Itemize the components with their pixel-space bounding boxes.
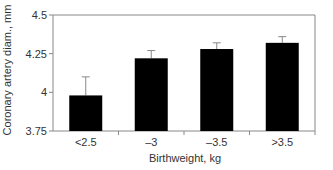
bar — [200, 49, 233, 131]
y-ticks-group: 3.7544.254.5 — [26, 9, 53, 137]
y-tick-label: 4.25 — [26, 48, 47, 60]
y-axis-title: Coronary artery diam., mm — [1, 5, 13, 136]
bar — [266, 43, 299, 131]
bars-group — [69, 37, 299, 131]
bar — [135, 58, 168, 131]
bar-chart: 3.7544.254.5 <2.5–3–3.5>3.5 Birthweight,… — [0, 0, 333, 170]
x-ticks-group: <2.5–3–3.5>3.5 — [75, 131, 315, 148]
x-tick-label: –3 — [145, 136, 157, 148]
y-tick-label: 4.5 — [32, 9, 47, 21]
x-tick-label: >3.5 — [271, 136, 293, 148]
bar — [69, 95, 102, 131]
y-tick-label: 3.75 — [26, 125, 47, 137]
x-tick-label: –3.5 — [206, 136, 227, 148]
y-tick-label: 4 — [41, 86, 47, 98]
x-axis-title: Birthweight, kg — [149, 152, 221, 164]
x-tick-label: <2.5 — [75, 136, 97, 148]
